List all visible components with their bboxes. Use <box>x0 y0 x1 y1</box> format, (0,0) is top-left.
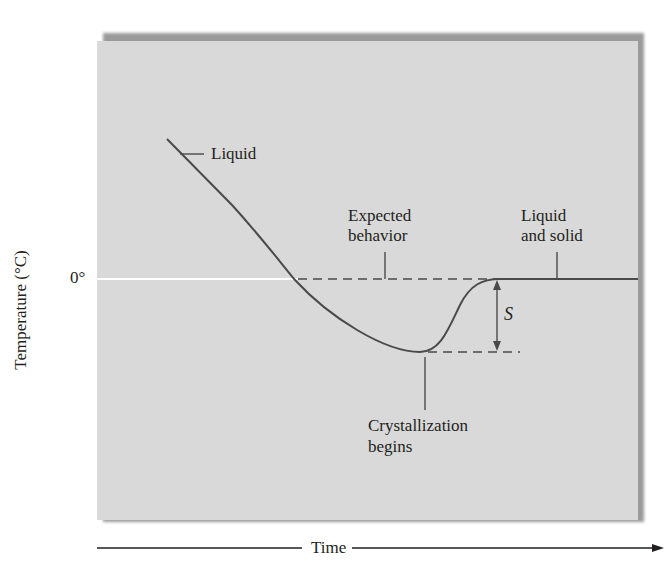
liquid-label: Liquid <box>211 144 256 164</box>
y-tick-zero: 0° <box>70 268 85 288</box>
arrow-down-icon <box>493 341 501 351</box>
supercooling-s-label: S <box>504 304 513 325</box>
arrow-up-icon <box>493 280 501 290</box>
liquid-solid-label-line2: and solid <box>521 226 583 246</box>
crystallization-label-line2: begins <box>368 437 412 457</box>
expected-behavior-label-line2: behavior <box>348 226 407 246</box>
y-axis-label: Temperature (°C) <box>11 250 31 369</box>
liquid-solid-label-line1: Liquid <box>521 206 566 226</box>
x-axis-label: Time <box>307 538 350 558</box>
plot-svg <box>0 0 668 567</box>
crystallization-label-line1: Crystallization <box>368 416 468 436</box>
arrow-right-icon <box>652 544 664 552</box>
cooling-curve-figure: Temperature (°C) 0° Liquid Expected beha… <box>0 0 668 567</box>
expected-behavior-label-line1: Expected <box>348 206 411 226</box>
